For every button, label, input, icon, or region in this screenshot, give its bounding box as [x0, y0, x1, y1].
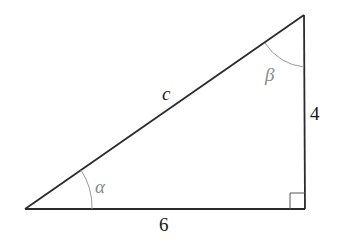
base-label: 6: [159, 215, 169, 234]
height-label: 4: [310, 104, 320, 123]
beta-label: β: [265, 65, 274, 84]
alpha-angle-arc: [81, 170, 92, 209]
hypotenuse-label: c: [162, 84, 170, 103]
right-angle-marker: [290, 193, 305, 209]
alpha-label: α: [95, 177, 105, 196]
hypotenuse-line: [25, 15, 304, 209]
height-line: [304, 15, 305, 209]
right-triangle-diagram: [0, 0, 337, 242]
